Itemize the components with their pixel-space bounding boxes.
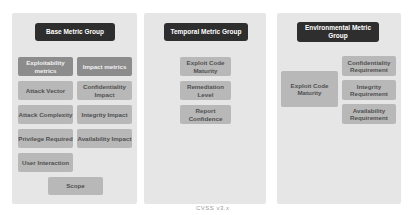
base-metric-group-title: Base Metric Group — [35, 23, 115, 41]
attack-complexity-box: Attack Complexity — [18, 105, 73, 124]
exploit-code-maturity-box: Exploit Code Maturity — [180, 57, 231, 76]
exploitability-metrics-header: Exploitability metrics — [18, 57, 73, 76]
impact-metrics-header: Impact metrics — [77, 57, 132, 76]
temporal-metric-group-title: Temporal Metric Group — [164, 23, 248, 41]
confidentiality-impact-box: Confidentiality Impact — [77, 81, 132, 100]
figure-caption: CVSS v3.x — [196, 205, 230, 211]
availability-impact-box: Availability Impact — [77, 129, 132, 148]
base-metric-group-panel: Base Metric Group Exploitability metrics… — [12, 13, 137, 204]
attack-vector-box: Attack Vector — [18, 81, 73, 100]
confidentiality-requirement-box: Confidentiality Requirement — [342, 56, 396, 76]
integrity-requirement-box: Integrity Requirement — [342, 80, 396, 100]
integrity-impact-box: Integrity Impact — [77, 105, 132, 124]
environmental-metric-group-panel: Environmental Metric Group Exploit Code … — [277, 13, 401, 204]
scope-box: Scope — [48, 177, 103, 195]
temporal-metric-group-panel: Temporal Metric Group Exploit Code Matur… — [144, 13, 266, 204]
environmental-metric-group-title: Environmental Metric Group — [297, 22, 379, 42]
report-confidence-box: Report Confidence — [180, 105, 231, 124]
privilege-required-box: Privilege Required — [18, 129, 73, 148]
env-exploit-code-maturity-box: Exploit Code Maturity — [281, 71, 338, 107]
availability-requirement-box: Availability Requirement — [342, 104, 396, 124]
remediation-level-box: Remediation Level — [180, 81, 231, 100]
user-interaction-box: User Interaction — [18, 153, 73, 172]
